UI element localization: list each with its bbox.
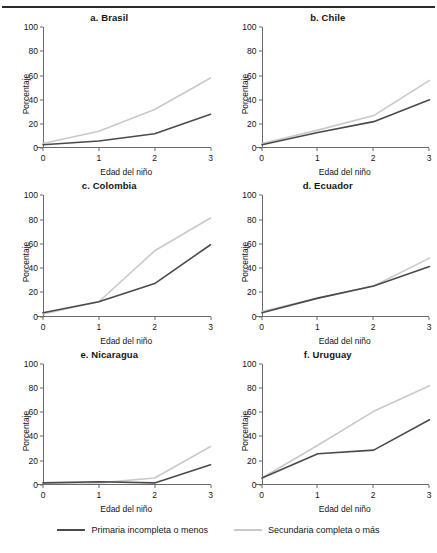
panel-colombia: c. ColombiaPorcentajeEdad del niño020406… — [0, 178, 219, 346]
series-canvas — [262, 27, 430, 148]
x-tick-label: 1 — [96, 490, 101, 500]
x-tick-label: 1 — [96, 322, 101, 332]
y-tick-label: 60 — [29, 71, 38, 81]
y-tick-label: 20 — [247, 287, 256, 297]
x-tick-label: 0 — [41, 490, 46, 500]
y-tick-label: 100 — [24, 359, 38, 369]
x-tick-mark — [429, 317, 430, 320]
plot-area: 0204060801000123 — [43, 195, 211, 316]
y-tick-label: 80 — [247, 46, 256, 56]
x-tick-label: 3 — [427, 322, 432, 332]
x-tick-mark — [373, 317, 374, 320]
series-line — [43, 78, 211, 144]
series-canvas — [262, 195, 430, 316]
y-tick-label: 40 — [29, 263, 38, 273]
x-tick-mark — [98, 317, 99, 320]
series-canvas — [43, 364, 211, 485]
x-axis-label: Edad del niño — [257, 336, 434, 346]
panel-chile: b. ChilePorcentajeEdad del niño020406080… — [219, 10, 437, 178]
y-tick-label: 60 — [247, 71, 256, 81]
y-tick-label: 80 — [247, 215, 256, 225]
x-tick-mark — [373, 485, 374, 488]
legend-line-icon — [57, 529, 85, 531]
chart-legend: Primaria incompleta o menosSecundaria co… — [0, 525, 437, 535]
series-line — [262, 80, 430, 143]
panel-ecuador: d. EcuadorPorcentajeEdad del niño0204060… — [219, 178, 437, 346]
series-line — [43, 446, 211, 482]
plot-area: 0204060801000123 — [43, 27, 211, 148]
x-axis-label: Edad del niño — [257, 504, 434, 514]
x-tick-label: 1 — [96, 153, 101, 163]
x-tick-mark — [43, 485, 44, 488]
legend-line-icon — [234, 529, 262, 531]
x-axis-label: Edad del niño — [38, 504, 215, 514]
y-tick-label: 100 — [24, 190, 38, 200]
panel-nicaragua: e. NicaraguaPorcentajeEdad del niño02040… — [0, 347, 219, 515]
x-tick-mark — [98, 148, 99, 151]
y-tick-label: 20 — [29, 287, 38, 297]
y-tick-label: 40 — [29, 95, 38, 105]
y-tick-label: 20 — [29, 119, 38, 129]
x-tick-label: 3 — [208, 490, 213, 500]
y-tick-label: 100 — [242, 22, 256, 32]
plot-area: 0204060801000123 — [43, 364, 211, 485]
y-tick-label: 80 — [29, 215, 38, 225]
y-tick-label: 40 — [29, 431, 38, 441]
x-tick-label: 3 — [427, 490, 432, 500]
y-tick-label: 100 — [242, 359, 256, 369]
series-canvas — [43, 195, 211, 316]
y-tick-label: 0 — [33, 143, 38, 153]
x-tick-mark — [210, 148, 211, 151]
x-axis-label: Edad del niño — [38, 336, 215, 346]
x-tick-mark — [154, 485, 155, 488]
y-tick-label: 40 — [247, 263, 256, 273]
series-line — [43, 114, 211, 144]
x-tick-label: 1 — [315, 153, 320, 163]
y-tick-label: 40 — [247, 95, 256, 105]
x-tick-mark — [154, 317, 155, 320]
series-line — [262, 385, 430, 477]
x-tick-label: 1 — [315, 322, 320, 332]
x-tick-mark — [154, 148, 155, 151]
x-tick-mark — [317, 148, 318, 151]
y-tick-label: 80 — [29, 46, 38, 56]
series-line — [43, 245, 211, 313]
series-line — [43, 218, 211, 314]
y-tick-label: 60 — [29, 239, 38, 249]
x-tick-mark — [317, 317, 318, 320]
y-tick-label: 20 — [247, 119, 256, 129]
x-tick-mark — [429, 148, 430, 151]
panel-grid: a. BrasilPorcentajeEdad del niño02040608… — [0, 10, 437, 515]
y-tick-label: 40 — [247, 431, 256, 441]
y-tick-label: 100 — [24, 22, 38, 32]
x-tick-label: 3 — [427, 153, 432, 163]
x-tick-label: 0 — [41, 322, 46, 332]
x-tick-mark — [43, 148, 44, 151]
x-tick-mark — [373, 148, 374, 151]
series-line — [262, 267, 430, 313]
panel-brasil: a. BrasilPorcentajeEdad del niño02040608… — [0, 10, 219, 178]
x-tick-mark — [317, 485, 318, 488]
legend-item: Primaria incompleta o menos — [57, 525, 208, 535]
y-tick-label: 60 — [29, 407, 38, 417]
x-tick-label: 2 — [152, 490, 157, 500]
y-tick-label: 20 — [29, 456, 38, 466]
plot-area: 0204060801000123 — [262, 364, 430, 485]
y-tick-label: 60 — [247, 407, 256, 417]
x-tick-label: 0 — [259, 322, 264, 332]
x-tick-mark — [261, 317, 262, 320]
x-tick-label: 0 — [259, 153, 264, 163]
x-tick-mark — [210, 317, 211, 320]
x-tick-mark — [429, 485, 430, 488]
y-tick-label: 60 — [247, 239, 256, 249]
x-tick-label: 0 — [259, 490, 264, 500]
y-tick-label: 0 — [33, 480, 38, 490]
y-tick-label: 0 — [252, 143, 257, 153]
x-tick-label: 1 — [315, 490, 320, 500]
legend-label: Secundaria completa o más — [268, 525, 380, 535]
x-axis-label: Edad del niño — [257, 167, 434, 177]
x-tick-label: 2 — [371, 322, 376, 332]
x-tick-label: 3 — [208, 153, 213, 163]
x-tick-mark — [98, 485, 99, 488]
top-divider — [2, 6, 435, 8]
